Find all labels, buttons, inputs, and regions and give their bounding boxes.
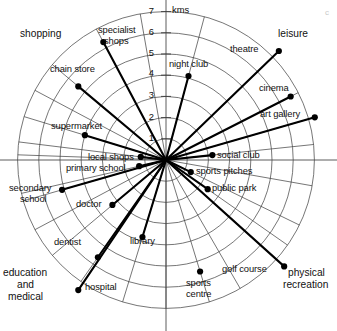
category-label-education-line1: education <box>3 267 47 279</box>
data-dot-social-club <box>209 152 215 158</box>
point-label-public-park: public park <box>212 183 256 193</box>
r-tick-label-1: 1 <box>142 133 154 143</box>
point-label-library: library <box>130 236 155 246</box>
point-label-night-club: night club <box>169 59 208 69</box>
corner-watermark: c <box>325 8 329 17</box>
point-label-sports-centre-line1: sports <box>186 278 211 288</box>
r-tick-label-2: 2 <box>142 112 154 122</box>
point-label-golf-course: golf course <box>222 264 267 274</box>
unit-label-kms: kms <box>172 4 189 15</box>
data-dot-cinema <box>288 93 294 99</box>
point-label-chain-store: chain store <box>50 64 95 74</box>
data-dot-local-shops <box>138 154 144 160</box>
category-label-leisure: leisure <box>278 28 308 40</box>
r-tick-label-7: 7 <box>142 6 154 16</box>
point-label-local-shops: local shops <box>88 152 134 162</box>
category-label-physical-recreation-line1: physical <box>288 267 325 279</box>
r-tick-label-6: 6 <box>142 27 154 37</box>
data-dot-golf-course <box>281 263 287 269</box>
data-dot-doctor <box>109 202 115 208</box>
data-dot-sports-centre <box>197 268 203 274</box>
point-label-cinema: cinema <box>259 83 289 93</box>
data-dot-art-gallery <box>312 114 318 120</box>
data-ray-specialist-shops <box>103 42 166 160</box>
point-label-hospital: hospital <box>85 282 117 292</box>
data-dot-secondary-school <box>59 187 65 193</box>
category-label-education-line3: medical <box>8 291 43 303</box>
data-dot-sports-pitches <box>188 169 194 175</box>
point-label-social-club: social club <box>217 150 260 160</box>
data-dot-chain-store <box>75 83 81 89</box>
data-dot-public-park <box>205 186 211 192</box>
data-dot-night-club <box>185 73 191 79</box>
category-label-education-line2: and <box>17 279 34 291</box>
point-label-theatre: theatre <box>230 44 259 54</box>
point-label-secondary-school-line1: secondary <box>9 183 51 193</box>
category-label-physical-recreation-line2: recreation <box>283 279 328 291</box>
point-label-specialist-shops-line1: specialist <box>98 25 136 35</box>
data-ray-library <box>142 160 166 237</box>
data-dot-hospital <box>75 287 81 293</box>
point-label-sports-pitches: sports pitches <box>196 166 252 176</box>
r-tick-label-4: 4 <box>142 68 154 78</box>
point-label-primary-school: primary school <box>66 163 126 173</box>
point-label-secondary-school-line2: school <box>20 194 47 204</box>
r-tick-label-5: 5 <box>142 48 154 58</box>
polar-distance-chart: 7 6 5 4 3 2 1 kms specialist shops chain… <box>0 0 337 331</box>
point-label-dentist: dentist <box>54 237 81 247</box>
category-label-shopping: shopping <box>20 28 61 40</box>
point-label-doctor: doctor <box>76 199 101 209</box>
data-ray-hospital <box>78 160 166 290</box>
r-tick-label-3: 3 <box>142 90 154 100</box>
data-dot-dentist <box>95 254 101 260</box>
data-dot-theatre <box>276 48 282 54</box>
point-label-specialist-shops-line2: shops <box>104 36 129 46</box>
point-label-art-gallery: art gallery <box>260 109 300 119</box>
point-label-supermarket: supermarket <box>51 121 102 131</box>
data-dot-supermarket <box>82 132 88 138</box>
point-label-sports-centre-line2: centre <box>186 289 211 299</box>
data-dot-primary-school <box>136 163 142 169</box>
